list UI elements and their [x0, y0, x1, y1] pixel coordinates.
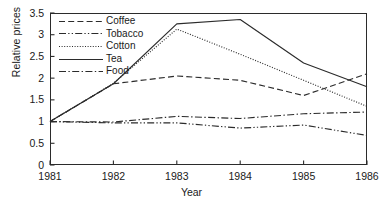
legend-item-food: Food: [58, 65, 143, 78]
y-axis-label: Relative prices: [10, 0, 22, 102]
x-tick-label: 1982: [91, 170, 135, 182]
line-chart: 00.511.522.533.5 19811982198319841985198…: [0, 0, 383, 201]
legend-item-tea: Tea: [58, 53, 143, 66]
legend-item-coffee: Coffee: [58, 15, 143, 28]
x-tick-label: 1986: [345, 170, 383, 182]
legend-label: Food: [106, 65, 129, 78]
series-line-coffee: [50, 74, 367, 122]
x-axis-label: Year: [0, 186, 383, 198]
x-tick-label: 1983: [155, 170, 199, 182]
legend-key-food-icon: [58, 66, 104, 77]
y-tick-label: 0.5: [4, 138, 44, 148]
legend-key-coffee-icon: [58, 16, 104, 27]
legend-key-tobacco-icon: [58, 28, 104, 39]
x-tick-label: 1984: [218, 170, 262, 182]
legend-label: Coffee: [106, 15, 135, 28]
x-tick-label: 1981: [28, 170, 72, 182]
x-tick-label: 1985: [282, 170, 326, 182]
legend-key-cotton-icon: [58, 41, 104, 52]
y-tick-label: 0: [4, 160, 44, 170]
legend-key-tea-icon: [58, 54, 104, 65]
legend-label: Tobacco: [106, 28, 143, 41]
legend-item-cotton: Cotton: [58, 40, 143, 53]
series-line-tobacco: [50, 122, 367, 136]
series-line-food: [50, 112, 367, 122]
y-tick-label: 1: [4, 116, 44, 126]
legend-label: Tea: [106, 53, 122, 66]
legend: CoffeeTobaccoCottonTeaFood: [58, 15, 143, 78]
legend-item-tobacco: Tobacco: [58, 28, 143, 41]
legend-label: Cotton: [106, 40, 135, 53]
